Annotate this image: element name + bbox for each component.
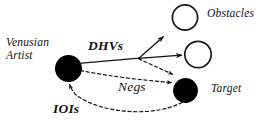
label-venusian-artist: Venusian Artist	[6, 36, 49, 62]
diagram-canvas: Venusian Artist DHVs Negs IOIs Obstacles…	[0, 0, 265, 127]
node-target[interactable]	[173, 78, 198, 103]
node-obstacle-middle[interactable]	[185, 41, 211, 67]
edge-dhv-ray-lower	[139, 59, 173, 74]
edge-dhv-ray-middle	[139, 55, 182, 58]
label-venusian-artist-line2: Artist	[6, 49, 49, 62]
label-dhvs: DHVs	[88, 38, 123, 53]
label-target: Target	[211, 82, 241, 95]
label-iois: IOIs	[53, 101, 79, 116]
label-obstacles: Obstacles	[207, 7, 254, 20]
edge-dhvs-trunk	[82, 58, 140, 63]
node-venusian-artist[interactable]	[55, 55, 82, 82]
node-obstacle-top[interactable]	[172, 5, 197, 30]
label-negs: Negs	[118, 79, 146, 94]
edge-dhv-ray-upper	[139, 37, 164, 59]
label-venusian-artist-line1: Venusian	[6, 36, 49, 49]
